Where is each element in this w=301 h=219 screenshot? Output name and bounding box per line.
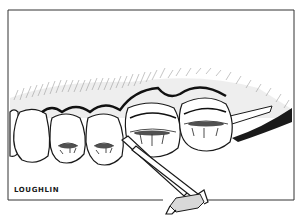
artist-signature: LOUGHLIN: [14, 186, 59, 194]
tooth-premolar-1: [50, 114, 85, 163]
tooth-premolar-2: [86, 114, 123, 165]
tooth-canine: [14, 109, 50, 162]
